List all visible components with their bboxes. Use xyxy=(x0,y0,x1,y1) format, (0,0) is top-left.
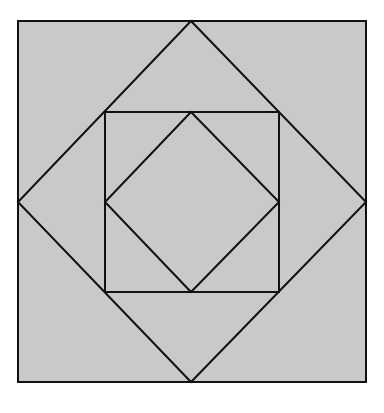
outer-square xyxy=(18,21,366,382)
nested-squares-diagram xyxy=(0,0,384,413)
shapes-layer xyxy=(18,21,366,382)
